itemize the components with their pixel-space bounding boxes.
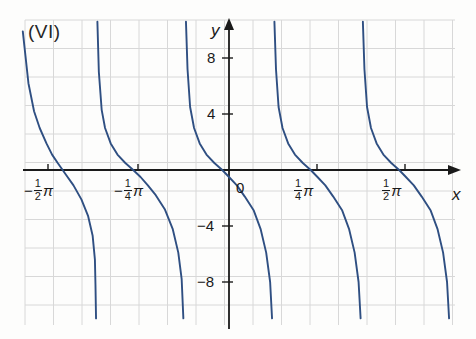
tick-sign: − <box>114 182 123 199</box>
tick-pi-symbol: π <box>303 182 313 199</box>
x-tick-zero: 0 <box>236 180 244 195</box>
x-tick-neg-half-pi: −12π <box>24 178 53 202</box>
y-tick-neg8: −8 <box>197 274 214 289</box>
y-axis-label: y <box>211 22 220 39</box>
plot-canvas <box>0 0 476 339</box>
grid-lines <box>25 20 455 325</box>
tick-pi-symbol: π <box>391 182 401 199</box>
chart-figure: (VI) y x −12π−14π014π12π 84−4−8 <box>0 0 476 339</box>
tick-fraction: 12 <box>382 178 390 202</box>
tick-pi-symbol: π <box>133 182 143 199</box>
x-tick-neg-quarter-pi: −14π <box>114 178 143 202</box>
x-tick-quarter-pi: 14π <box>293 178 313 202</box>
y-tick-neg4: −4 <box>197 218 214 233</box>
x-tick-half-pi: 12π <box>381 178 401 202</box>
tick-sign: − <box>24 182 33 199</box>
curve-branch-1 <box>23 31 96 318</box>
tick-fraction: 14 <box>124 178 132 202</box>
tick-fraction: 12 <box>34 178 42 202</box>
y-tick-8: 8 <box>207 50 215 65</box>
tick-pi-symbol: π <box>43 182 53 199</box>
tick-fraction: 14 <box>294 178 302 202</box>
panel-label: (VI) <box>28 22 61 41</box>
x-axis-label: x <box>452 186 461 203</box>
y-tick-4: 4 <box>207 106 215 121</box>
